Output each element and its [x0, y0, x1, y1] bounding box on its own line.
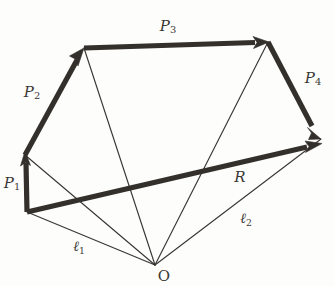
label-p2: P2 — [24, 85, 40, 102]
vector-p3-shaft — [84, 43, 255, 49]
label-p3-text: P — [160, 17, 170, 35]
vector-p4-arrowhead — [308, 128, 322, 140]
label-resultant-text: R — [234, 168, 245, 186]
vector-p4 — [268, 42, 321, 140]
label-p1-text: P — [4, 174, 14, 192]
vector-p2 — [25, 48, 84, 155]
vector-diagram: P1 P2 P3 P4 R ℓ1 ℓ2 O — [0, 0, 334, 286]
vector-p2-shaft — [25, 60, 77, 155]
ray-origin-to-p4-head — [155, 139, 321, 265]
ray-origin-to-p2-head — [84, 48, 155, 265]
vector-resultant-arrowhead — [305, 141, 322, 153]
label-p2-sub: 2 — [34, 90, 40, 101]
label-l1-sub: 1 — [79, 245, 85, 256]
vector-p1-shaft — [26, 163, 27, 212]
label-p4-sub: 4 — [315, 76, 321, 87]
vector-p1 — [21, 151, 31, 212]
label-l2: ℓ2 — [240, 211, 252, 227]
label-resultant: R — [234, 170, 245, 185]
label-p3-sub: 3 — [170, 24, 176, 35]
vector-group — [21, 37, 323, 213]
label-l1: ℓ1 — [73, 239, 85, 255]
label-p4: P4 — [305, 71, 321, 88]
label-p1: P1 — [4, 176, 20, 193]
vector-p3-arrowhead — [253, 37, 269, 49]
label-p4-text: P — [305, 69, 315, 87]
label-p1-sub: 1 — [14, 181, 20, 192]
vector-resultant — [27, 141, 322, 212]
ray-origin-to-p3-head — [155, 42, 268, 265]
label-l2-sub: 2 — [246, 217, 252, 228]
label-p3: P3 — [160, 19, 176, 36]
vector-resultant-shaft — [27, 147, 307, 212]
vector-p3 — [84, 37, 269, 49]
label-p2-text: P — [24, 83, 34, 101]
label-origin: O — [158, 269, 170, 284]
diagram-canvas — [0, 0, 334, 286]
label-origin-text: O — [158, 267, 170, 285]
ray-origin-to-p1-tail — [27, 212, 155, 265]
